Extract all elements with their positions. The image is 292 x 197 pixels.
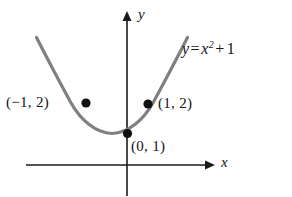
point-marker-0-1 xyxy=(123,129,132,138)
equation-base: x xyxy=(201,40,209,57)
equation-plus: + xyxy=(214,40,226,57)
x-axis-label: x xyxy=(221,155,228,170)
parabola-curve-main xyxy=(37,38,188,134)
parabola-graph-figure: (−1, 2) (1, 2) (0, 1) y x y=x2+1 xyxy=(0,0,292,197)
point-label-0-1: (0, 1) xyxy=(131,139,165,154)
point-label-1-2: (1, 2) xyxy=(158,96,192,111)
equation-lhs: y xyxy=(182,40,190,57)
equation-label: y=x2+1 xyxy=(182,40,236,57)
point-marker-1-2 xyxy=(143,99,152,108)
point-label-neg1-2: (−1, 2) xyxy=(6,95,49,110)
x-axis-arrowhead-icon xyxy=(205,161,215,170)
y-axis-label: y xyxy=(138,7,145,22)
point-marker-neg1-2 xyxy=(81,98,90,107)
y-axis-arrowhead-icon xyxy=(123,11,132,21)
equation-equals: = xyxy=(190,40,202,57)
equation-constant: 1 xyxy=(226,40,237,57)
